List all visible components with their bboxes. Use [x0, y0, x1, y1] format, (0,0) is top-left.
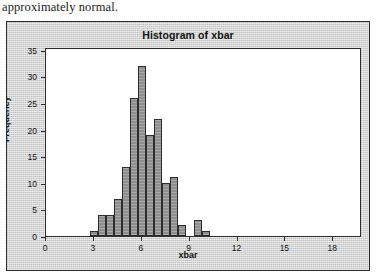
y-tick-label: 30: [11, 72, 37, 82]
x-tick-mark: [284, 237, 285, 241]
x-tick-label: 0: [35, 243, 55, 253]
histogram-bar: [162, 183, 170, 236]
x-tick-label: 18: [322, 243, 342, 253]
histogram-bar: [146, 135, 154, 236]
histogram-bar: [122, 167, 130, 236]
x-tick-mark: [45, 237, 46, 241]
histogram-bar: [178, 225, 186, 236]
histogram-bar: [154, 119, 162, 236]
histogram-bar: [170, 177, 178, 236]
x-tick-mark: [93, 237, 94, 241]
x-tick-label: 3: [83, 243, 103, 253]
x-tick-mark: [237, 237, 238, 241]
histogram-bar: [194, 220, 202, 236]
y-tick-label: 5: [11, 205, 37, 215]
histogram-bar: [106, 215, 114, 236]
histogram-bar: [202, 231, 210, 236]
histogram-bar: [98, 215, 106, 236]
y-tick-label: 10: [11, 179, 37, 189]
histogram-bar: [90, 231, 98, 236]
histogram-bar: [138, 66, 146, 236]
x-tick-label: 15: [274, 243, 294, 253]
x-tick-mark: [189, 237, 190, 241]
y-tick-label: 35: [11, 46, 37, 56]
x-tick-mark: [141, 237, 142, 241]
histogram-bar: [114, 199, 122, 236]
chart-title: Histogram of xbar: [7, 29, 369, 41]
histogram-bars: [46, 49, 360, 236]
x-tick-label: 12: [227, 243, 247, 253]
y-tick-label: 0: [11, 232, 37, 242]
histogram-bar: [130, 98, 138, 236]
histogram-figure-panel: Histogram of xbar Frequency xbar 0510152…: [6, 21, 370, 271]
plot-area: [45, 48, 361, 237]
x-tick-mark: [332, 237, 333, 241]
x-tick-label: 9: [179, 243, 199, 253]
x-tick-label: 6: [131, 243, 151, 253]
y-tick-label: 15: [11, 152, 37, 162]
y-tick-label: 20: [11, 126, 37, 136]
screenshot-root: approximately normal. Histogram of xbar …: [0, 0, 376, 273]
y-tick-label: 25: [11, 99, 37, 109]
caption-text: approximately normal.: [2, 0, 118, 15]
